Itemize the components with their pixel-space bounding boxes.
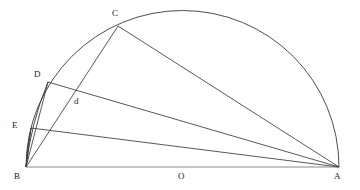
semicircle-BA-arc (26, 11, 339, 168)
point-label-d: d (74, 97, 79, 106)
diagram-canvas (0, 0, 360, 190)
segment-chord-BD (26, 82, 48, 167)
segment-chord-DA (48, 82, 339, 167)
geometric-diagram: C D d E B O A (0, 0, 360, 190)
point-label-E: E (12, 121, 18, 130)
point-label-O: O (178, 172, 185, 181)
point-label-C: C (112, 9, 118, 18)
segment-chord-CA (118, 26, 339, 167)
segment-chord-EA (31, 128, 339, 167)
point-label-A: A (334, 172, 341, 181)
point-label-B: B (14, 172, 20, 181)
segment-chord-BC (26, 26, 118, 167)
point-label-D: D (34, 70, 41, 79)
